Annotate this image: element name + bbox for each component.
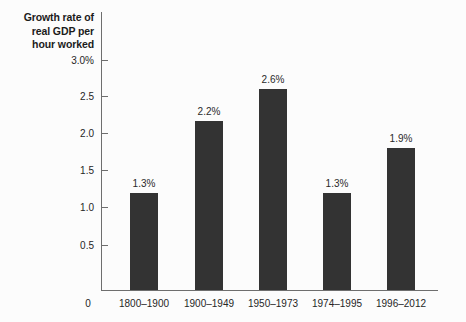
y-axis-title-line-3: hour worked [6,38,94,52]
y-tick-label-4: 2.5 [46,91,94,102]
bar-value-0: 1.3% [118,178,170,189]
y-axis-title-line-2: real GDP per [6,25,94,39]
y-tick-label-3: 2.0 [46,128,94,139]
y-tick-label-1: 1.0 [46,202,94,213]
y-axis-title: Growth rate of real GDP per hour worked [6,11,94,52]
y-tick-mark-5 [102,60,108,61]
y-axis-title-line-1: Growth rate of [6,11,94,25]
x-axis-label-4: 1996–2012 [356,298,446,309]
y-tick-label-5: 3.0% [46,55,94,66]
y-tick-mark-3 [102,133,108,134]
bar-value-1: 2.2% [183,106,235,117]
bar-value-2: 2.6% [247,74,299,85]
bar-value-3: 1.3% [311,178,363,189]
bar-2[interactable] [259,89,287,290]
bar-4[interactable] [387,148,415,290]
y-tick-mark-1 [102,207,108,208]
bar-1[interactable] [195,121,223,290]
bar-chart: Growth rate of real GDP per hour worked … [0,0,466,322]
y-tick-label-2: 1.5 [46,165,94,176]
bar-3[interactable] [323,193,351,290]
x-axis-line [101,290,438,291]
y-axis-line [101,12,102,291]
y-tick-mark-4 [102,96,108,97]
bar-0[interactable] [130,193,158,290]
y-tick-label-0: 0.5 [46,240,94,251]
bar-value-4: 1.9% [375,133,427,144]
origin-label: 0 [78,298,98,309]
y-tick-mark-0 [102,245,108,246]
y-tick-mark-2 [102,170,108,171]
